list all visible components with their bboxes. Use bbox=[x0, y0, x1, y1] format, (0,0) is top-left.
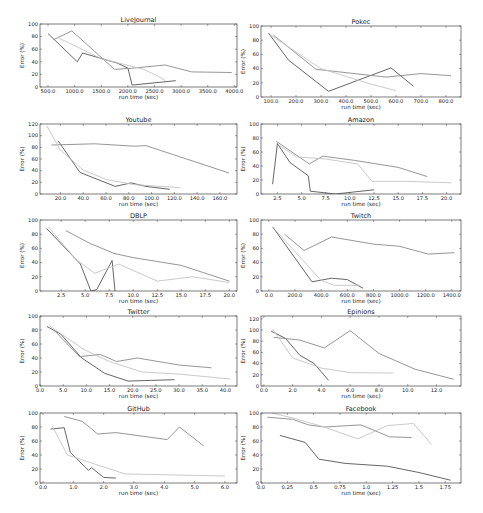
x-tick-label: 1.75 bbox=[439, 484, 451, 490]
y-tick-label: 20 bbox=[31, 466, 38, 472]
y-tick-label: 80 bbox=[252, 231, 259, 237]
x-tick-label: 1400.0 bbox=[443, 292, 461, 298]
x-tick-label: 400.0 bbox=[314, 292, 329, 298]
x-tick-label: 17.5 bbox=[417, 195, 429, 201]
y-tick-label: 100 bbox=[249, 410, 259, 416]
chart-title: Amazon bbox=[348, 116, 374, 124]
chart-title: Youtube bbox=[125, 116, 152, 124]
y-tick-label: 80 bbox=[252, 338, 259, 344]
series-line-1 bbox=[280, 435, 451, 480]
y-tick-label: 40 bbox=[252, 259, 259, 265]
x-tick-label: 30.0 bbox=[173, 387, 185, 393]
x-tick-label: 0.0 bbox=[39, 484, 47, 490]
chart-title: Twitter bbox=[127, 308, 150, 316]
plot-lines bbox=[48, 31, 232, 85]
x-tick-label: 200.0 bbox=[289, 98, 304, 104]
plot-lines bbox=[51, 417, 225, 479]
y-tick-label: 100 bbox=[249, 121, 259, 127]
plot-lines bbox=[273, 142, 452, 195]
chart-twitter: Twitter0.05.010.015.020.025.030.035.040.… bbox=[19, 308, 237, 399]
figure: LiveJournal500.01000.01500.02000.02500.0… bbox=[0, 0, 483, 513]
axes-frame bbox=[40, 316, 237, 386]
y-tick-label: 100 bbox=[28, 132, 38, 138]
chart-facebook: Facebook0.00.250.50.751.01.251.51.750204… bbox=[240, 405, 461, 496]
plot-lines bbox=[47, 326, 230, 381]
x-tick-label: 12.0 bbox=[431, 387, 443, 393]
x-tick-label: 3500.0 bbox=[199, 88, 217, 94]
chart-amazon: Amazon2.55.07.510.012.515.017.520.002040… bbox=[240, 116, 461, 207]
y-tick-label: 40 bbox=[252, 65, 259, 71]
x-tick-label: 600.0 bbox=[389, 98, 404, 104]
y-tick-label: 100 bbox=[249, 217, 259, 223]
y-tick-label: 0 bbox=[35, 480, 38, 486]
y-tick-label: 0 bbox=[256, 288, 259, 294]
y-tick-label: 20 bbox=[252, 177, 259, 183]
x-tick-label: 15.0 bbox=[104, 387, 116, 393]
series-line-1 bbox=[271, 331, 329, 380]
x-tick-label: 100.0 bbox=[264, 98, 279, 104]
chart-youtube: Youtube20.040.060.080.0100.0120.0140.016… bbox=[19, 116, 237, 207]
y-tick-label: 0 bbox=[35, 288, 38, 294]
x-tick-label: 17.5 bbox=[200, 292, 212, 298]
y-tick-label: 40 bbox=[31, 452, 38, 458]
x-tick-label: 0.0 bbox=[260, 387, 268, 393]
x-tick-label: 10.0 bbox=[402, 387, 414, 393]
y-axis-label: Error (%) bbox=[240, 338, 246, 363]
y-axis-label: Error (%) bbox=[19, 338, 25, 363]
y-tick-label: 40 bbox=[31, 59, 38, 65]
chart-title: Pokec bbox=[352, 18, 371, 26]
x-axis-label: run time (sec) bbox=[341, 393, 380, 399]
chart-title: Twitch bbox=[350, 212, 371, 220]
x-tick-label: 40.0 bbox=[220, 387, 232, 393]
x-tick-label: 2.0 bbox=[289, 387, 297, 393]
x-tick-label: 4000.0 bbox=[225, 88, 243, 94]
x-tick-label: 15.0 bbox=[175, 292, 187, 298]
series-line-3 bbox=[274, 229, 360, 286]
y-tick-label: 120 bbox=[249, 316, 259, 322]
y-tick-label: 100 bbox=[28, 313, 38, 319]
series-line-2 bbox=[277, 142, 428, 177]
y-tick-label: 20 bbox=[31, 274, 38, 280]
x-tick-label: 1.25 bbox=[387, 484, 399, 490]
x-tick-label: 20.0 bbox=[441, 195, 453, 201]
y-tick-label: 20 bbox=[252, 372, 259, 378]
chart-title: DBLP bbox=[130, 212, 147, 220]
x-tick-label: 500.0 bbox=[41, 88, 56, 94]
x-tick-label: 60.0 bbox=[100, 195, 112, 201]
axes-frame bbox=[261, 316, 461, 386]
x-axis-label: run time (sec) bbox=[119, 490, 158, 496]
x-tick-label: 2.0 bbox=[100, 484, 108, 490]
x-tick-label: 20.0 bbox=[224, 292, 236, 298]
y-tick-label: 100 bbox=[249, 23, 259, 29]
x-axis-label: run time (sec) bbox=[119, 94, 158, 100]
chart-pokec: Pokec100.0200.0300.0400.0500.0600.0700.0… bbox=[240, 18, 461, 110]
x-tick-label: 1.5 bbox=[415, 484, 423, 490]
y-tick-label: 40 bbox=[31, 259, 38, 265]
chart-title: Epinions bbox=[347, 308, 375, 316]
plot-lines bbox=[271, 329, 454, 381]
y-tick-label: 20 bbox=[31, 369, 38, 375]
series-line-3 bbox=[47, 126, 180, 188]
chart-twitch: Twitch0.0200.0400.0600.0800.01000.01200.… bbox=[240, 212, 461, 304]
axes-frame bbox=[261, 413, 461, 483]
x-tick-label: 20.0 bbox=[55, 195, 67, 201]
x-tick-label: 5.0 bbox=[59, 387, 67, 393]
y-tick-label: 100 bbox=[28, 21, 38, 27]
series-line-2 bbox=[64, 417, 204, 446]
y-tick-label: 80 bbox=[31, 144, 38, 150]
x-tick-label: 15.0 bbox=[392, 195, 404, 201]
y-tick-label: 80 bbox=[252, 135, 259, 141]
y-tick-label: 80 bbox=[31, 327, 38, 333]
y-tick-label: 20 bbox=[252, 466, 259, 472]
x-axis-label: run time (sec) bbox=[341, 201, 380, 207]
series-line-2 bbox=[267, 417, 411, 437]
plot-lines bbox=[47, 126, 229, 190]
y-axis-label: Error (%) bbox=[19, 43, 25, 68]
y-tick-label: 20 bbox=[31, 179, 38, 185]
series-line-2 bbox=[274, 331, 454, 380]
x-tick-label: 5.0 bbox=[297, 195, 305, 201]
x-tick-label: 300.0 bbox=[314, 98, 329, 104]
y-tick-label: 60 bbox=[252, 149, 259, 155]
x-tick-label: 5.0 bbox=[190, 484, 198, 490]
y-tick-label: 60 bbox=[31, 341, 38, 347]
